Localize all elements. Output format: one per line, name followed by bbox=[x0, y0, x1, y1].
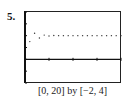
data-point bbox=[58, 35, 59, 36]
data-point bbox=[120, 35, 121, 36]
data-point bbox=[34, 33, 35, 34]
data-point bbox=[72, 35, 73, 36]
data-point bbox=[116, 35, 117, 36]
data-point bbox=[53, 35, 54, 36]
window-caption: [0, 20] by [−2, 4] bbox=[24, 85, 121, 96]
data-point bbox=[82, 35, 83, 36]
data-point bbox=[39, 37, 40, 38]
data-point bbox=[44, 34, 45, 35]
data-point bbox=[77, 35, 78, 36]
data-point bbox=[101, 35, 102, 36]
data-point bbox=[63, 35, 64, 36]
data-point bbox=[87, 35, 88, 36]
data-point bbox=[96, 35, 97, 36]
data-point bbox=[92, 35, 93, 36]
data-point bbox=[48, 35, 49, 36]
data-point bbox=[111, 35, 112, 36]
data-point bbox=[106, 35, 107, 36]
data-point bbox=[29, 41, 30, 42]
data-point bbox=[68, 35, 69, 36]
